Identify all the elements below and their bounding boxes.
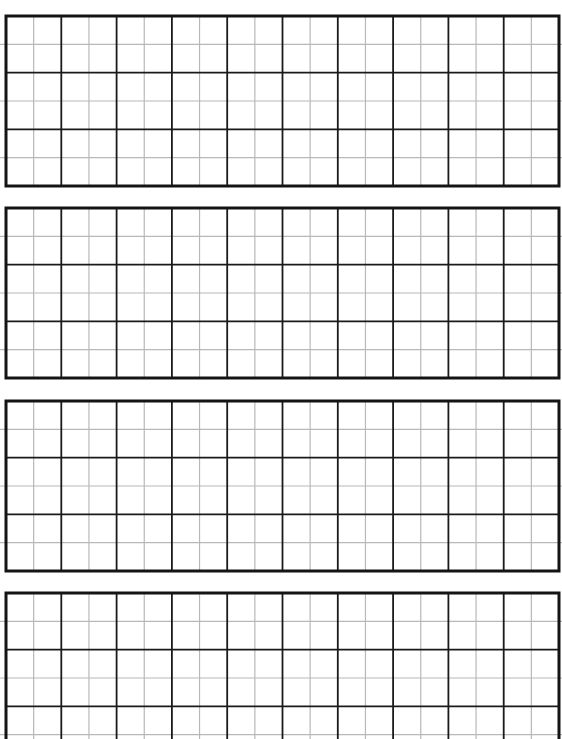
grid-block-2 — [0, 208, 562, 378]
grid-block-1 — [0, 16, 562, 186]
grid-block-3 — [0, 401, 562, 571]
grid-paper-canvas — [0, 0, 562, 739]
grid-paper-page — [0, 0, 562, 739]
grid-block-4 — [0, 593, 562, 739]
